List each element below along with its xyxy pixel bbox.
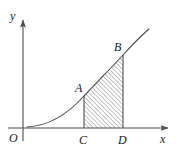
figure-canvas: y x O A B C D [0,0,183,152]
area-under-curve-figure: y x O A B C D [0,0,183,152]
point-label-b: B [114,40,122,54]
x-axis-label: x [159,132,166,146]
y-axis-label: y [9,9,16,23]
shaded-region [84,55,123,128]
origin-label: O [9,131,18,145]
point-label-a: A [74,81,83,95]
point-label-c: C [79,133,88,147]
point-label-d: D [117,133,127,147]
